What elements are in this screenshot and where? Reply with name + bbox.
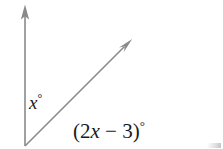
- vertical-ray-group: [21, 5, 29, 147]
- angle-label-x: x°: [29, 93, 42, 112]
- expression-constant: 3: [122, 119, 133, 143]
- expression-close-paren: ): [133, 119, 140, 143]
- expression-open-paren: (: [73, 119, 80, 143]
- angle-label-expression: (2x − 3)°: [73, 119, 145, 142]
- expression-degree-symbol: °: [140, 118, 145, 133]
- expression-operator: −: [105, 119, 117, 143]
- angle-diagram-figure: x° (2x − 3)°: [0, 0, 223, 149]
- angle-label-x-degree-symbol: °: [37, 92, 42, 105]
- expression-variable: x: [91, 119, 100, 143]
- expression-coefficient: 2: [80, 119, 91, 143]
